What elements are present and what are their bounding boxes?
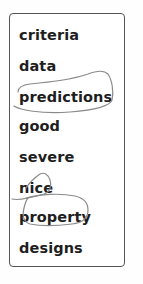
word-data: data bbox=[19, 59, 56, 74]
page: criteria data predictions good severe ni… bbox=[0, 0, 143, 284]
word-severe: severe bbox=[19, 150, 74, 165]
word-predictions: predictions bbox=[19, 90, 112, 105]
word-nice: nice bbox=[19, 181, 53, 196]
word-good: good bbox=[19, 119, 60, 134]
word-criteria: criteria bbox=[19, 28, 79, 43]
word-designs: designs bbox=[19, 241, 83, 256]
word-property: property bbox=[19, 210, 91, 225]
word-list-box bbox=[9, 13, 125, 267]
